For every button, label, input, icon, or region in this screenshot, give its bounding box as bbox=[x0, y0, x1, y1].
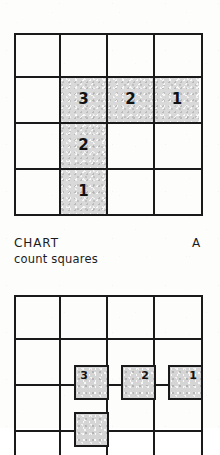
chart-a-label-r2c2: 3 bbox=[61, 92, 106, 107]
chart-b-label-2: 2 bbox=[137, 370, 153, 381]
chart-a-hline-2 bbox=[16, 122, 201, 124]
chart-a-vline-3 bbox=[153, 35, 155, 214]
chart-a-vline-2 bbox=[106, 35, 108, 214]
chart-a-hline-3 bbox=[16, 168, 201, 170]
chart-a-label-r3c2: 2 bbox=[61, 138, 106, 153]
chart-b-hline-1 bbox=[16, 338, 201, 340]
caption-subtitle: count squares bbox=[14, 254, 98, 266]
caption-title: CHART bbox=[14, 237, 59, 249]
caption-letter: A bbox=[192, 237, 201, 249]
chart-b-label-3: 1 bbox=[185, 370, 201, 381]
chart-a-label-r2c3: 2 bbox=[108, 92, 153, 107]
chart-a-label-r2c4: 1 bbox=[155, 92, 199, 107]
chart-a-label-r4c2: 1 bbox=[61, 184, 106, 199]
chart-b-label-1: 3 bbox=[76, 370, 92, 381]
chart-b-chip-4 bbox=[74, 412, 109, 447]
chart-a-hline-1 bbox=[16, 76, 201, 78]
chart-a-grid: 3 2 1 2 1 bbox=[14, 33, 203, 216]
